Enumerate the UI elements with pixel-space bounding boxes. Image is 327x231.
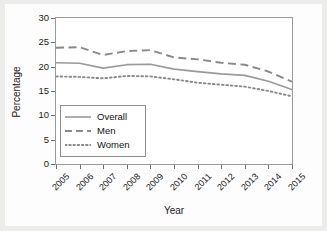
y-axis-tick — [51, 115, 55, 116]
y-axis-tick — [51, 67, 55, 68]
x-axis-tick — [174, 165, 175, 169]
x-axis-tick — [292, 165, 293, 169]
legend-swatch-solid-icon — [65, 112, 91, 122]
x-axis-title: Year — [55, 205, 293, 216]
y-axis-tick — [51, 91, 55, 92]
legend-swatch-dotted-icon — [65, 140, 91, 150]
x-axis-tick — [150, 165, 151, 169]
y-axis-tick-label: 15 — [38, 86, 49, 96]
legend-item-women: Women — [65, 138, 140, 152]
series-line-overall — [56, 63, 292, 90]
chart-figure: Percentage 051015202530 2005200620072008… — [0, 0, 327, 231]
legend-swatch-dashed-icon — [65, 126, 91, 136]
x-axis-tick — [103, 165, 104, 169]
y-axis-tick-label: 30 — [38, 13, 49, 23]
legend-label-overall: Overall — [97, 112, 127, 122]
x-axis-tick — [198, 165, 199, 169]
x-axis-tick — [127, 165, 128, 169]
legend-label-men: Men — [97, 126, 115, 136]
y-axis-title: Percentage — [8, 48, 24, 136]
chart-legend: Overall Men Women — [60, 105, 146, 157]
x-axis-tick — [80, 165, 81, 169]
y-axis-tick — [51, 140, 55, 141]
x-axis-tick — [268, 165, 269, 169]
x-axis: 2005200620072008200920102011201220132014… — [55, 165, 293, 166]
y-axis-tick-label: 10 — [38, 111, 49, 121]
legend-item-overall: Overall — [65, 110, 140, 124]
x-axis-tick — [245, 165, 246, 169]
x-axis-tick — [56, 165, 57, 169]
y-axis-tick-label: 25 — [38, 38, 49, 48]
y-axis-tick-label: 20 — [38, 62, 49, 72]
legend-label-women: Women — [97, 140, 130, 150]
x-axis-tick — [221, 165, 222, 169]
y-axis-tick — [51, 18, 55, 19]
legend-item-men: Men — [65, 124, 140, 138]
series-line-men — [56, 47, 292, 82]
y-axis-tick-label: 5 — [44, 135, 49, 145]
y-axis-tick — [51, 42, 55, 43]
y-axis-title-text: Percentage — [11, 66, 22, 117]
y-axis-tick-label: 0 — [44, 159, 49, 169]
y-axis: 051015202530 — [55, 17, 56, 165]
